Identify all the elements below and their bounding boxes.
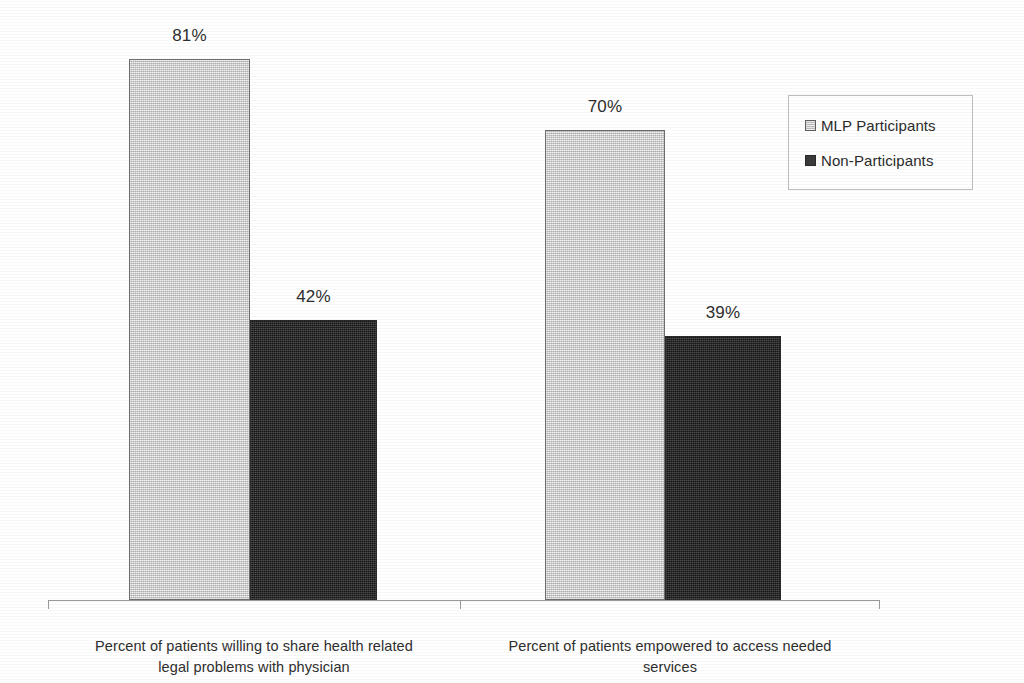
bar-mlp-participants-category-1[interactable] — [129, 59, 250, 600]
bar-chart: 81% 42% 70% 39% Percent of patients will… — [0, 0, 1024, 683]
category-label-2: Percent of patients empowered to access … — [470, 636, 870, 678]
bar-mlp-participants-category-2[interactable] — [545, 130, 665, 600]
data-label-39: 39% — [665, 303, 781, 323]
legend: MLP Participants Non-Participants — [788, 95, 973, 190]
legend-item-non-participants[interactable]: Non-Participants — [805, 152, 933, 169]
axis-tick-middle — [460, 600, 461, 609]
category-label-2-line-1: Percent of patients empowered to access … — [470, 636, 870, 657]
light-swatch-icon — [805, 120, 816, 131]
axis-tick-left — [48, 600, 49, 609]
data-label-81: 81% — [129, 26, 250, 46]
category-label-1-line-2: legal problems with physician — [58, 657, 450, 678]
dark-swatch-icon — [805, 155, 816, 166]
bar-non-participants-category-2[interactable] — [665, 336, 781, 600]
legend-label-mlp-participants: MLP Participants — [821, 117, 936, 134]
legend-item-mlp-participants[interactable]: MLP Participants — [805, 117, 936, 134]
category-label-2-line-2: services — [470, 657, 870, 678]
data-label-70: 70% — [545, 97, 665, 117]
bar-non-participants-category-1[interactable] — [250, 320, 377, 600]
data-label-42: 42% — [250, 287, 377, 307]
legend-label-non-participants: Non-Participants — [821, 152, 933, 169]
x-axis-line — [48, 600, 880, 601]
axis-tick-right — [879, 600, 880, 609]
category-label-1: Percent of patients willing to share hea… — [58, 636, 450, 678]
plot-area: 81% 42% 70% 39% Percent of patients will… — [0, 0, 1024, 683]
category-label-1-line-1: Percent of patients willing to share hea… — [58, 636, 450, 657]
